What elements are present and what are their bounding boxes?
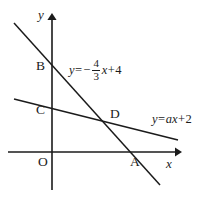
graph-canvas bbox=[0, 0, 219, 197]
x-axis-label: x bbox=[166, 157, 172, 170]
equation-shallow-lhs: y bbox=[152, 113, 158, 126]
point-label-a: A bbox=[130, 155, 140, 169]
linear-functions-figure: y x O A B C D y = − 4 3 x + 4 y = a x + … bbox=[0, 0, 219, 197]
equation-steep-denominator: 3 bbox=[92, 71, 100, 83]
equation-steep-constant: 4 bbox=[115, 64, 121, 77]
equation-steep-equals: = bbox=[75, 64, 82, 77]
point-label-origin: O bbox=[38, 155, 48, 169]
equation-shallow-constant: 2 bbox=[186, 113, 192, 126]
equation-steep-line: y = − 4 3 x + 4 bbox=[69, 58, 122, 82]
equation-steep-numerator: 4 bbox=[92, 58, 100, 70]
equation-shallow-equals: = bbox=[158, 113, 165, 126]
equation-steep-fraction: 4 3 bbox=[92, 58, 100, 82]
point-label-b: B bbox=[36, 59, 45, 73]
equation-steep-lhs: y bbox=[69, 64, 75, 77]
point-label-d: D bbox=[110, 107, 120, 121]
equation-shallow-line: y = a x + 2 bbox=[152, 113, 192, 126]
equation-shallow-plus: + bbox=[178, 113, 185, 126]
x-axis-arrow-icon bbox=[175, 147, 182, 156]
y-axis-label: y bbox=[38, 8, 44, 21]
equation-steep-minus: − bbox=[83, 64, 90, 77]
point-label-c: C bbox=[36, 103, 45, 117]
equation-steep-plus: + bbox=[108, 64, 115, 77]
equation-shallow-variable: x bbox=[172, 113, 178, 126]
y-axis-arrow-icon bbox=[47, 13, 56, 20]
equation-steep-variable: x bbox=[102, 64, 108, 77]
